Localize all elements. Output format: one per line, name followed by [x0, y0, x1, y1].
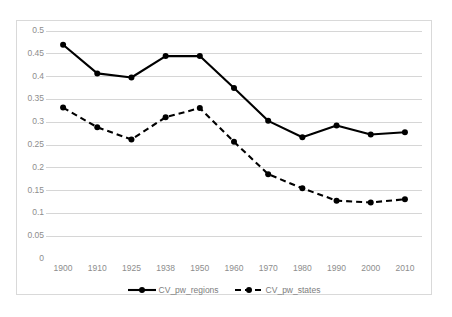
data-point[interactable]: [402, 129, 408, 135]
y-axis-tick-labels: 00.050.10.150.20.250.30.350.40.450.5: [16, 31, 44, 259]
x-axis-tick-labels: 1900191019251938195019601970198019902000…: [46, 263, 422, 277]
y-tick-label: 0.15: [16, 186, 44, 195]
data-point[interactable]: [334, 198, 340, 204]
legend-item-CV_pw_regions[interactable]: CV_pw_regions: [128, 285, 219, 295]
x-tick-label: 1980: [293, 263, 312, 273]
data-point[interactable]: [231, 139, 237, 145]
data-point[interactable]: [265, 171, 271, 177]
data-point[interactable]: [368, 199, 374, 205]
x-tick-label: 2000: [361, 263, 380, 273]
data-point[interactable]: [334, 122, 340, 128]
legend-label: CV_pw_states: [266, 285, 321, 295]
y-tick-label: 0.05: [16, 231, 44, 240]
y-tick-label: 0.35: [16, 94, 44, 103]
data-point[interactable]: [94, 124, 100, 130]
x-tick-label: 1925: [122, 263, 141, 273]
x-tick-label: 1970: [259, 263, 278, 273]
x-tick-label: 1900: [54, 263, 73, 273]
data-point[interactable]: [94, 70, 100, 76]
data-point[interactable]: [128, 137, 134, 143]
y-tick-label: 0.3: [16, 117, 44, 126]
x-tick-label: 2010: [395, 263, 414, 273]
y-tick-label: 0.2: [16, 163, 44, 172]
legend-item-CV_pw_states[interactable]: CV_pw_states: [235, 285, 321, 295]
chart-container: 00.050.10.150.20.250.30.350.40.450.5 190…: [0, 0, 452, 317]
data-point[interactable]: [231, 85, 237, 91]
data-point[interactable]: [197, 53, 203, 59]
data-point[interactable]: [163, 114, 169, 120]
data-point[interactable]: [60, 42, 66, 48]
x-tick-label: 1990: [327, 263, 346, 273]
legend-swatch-solid-line-icon: [128, 285, 156, 295]
legend-swatch-dashed-line-icon: [235, 285, 263, 295]
series-lines-group: [63, 45, 405, 203]
data-point[interactable]: [402, 196, 408, 202]
x-tick-label: 1960: [225, 263, 244, 273]
x-tick-label: 1938: [156, 263, 175, 273]
series-markers-group: [60, 42, 408, 206]
data-point[interactable]: [368, 132, 374, 138]
x-tick-label: 1950: [190, 263, 209, 273]
data-point[interactable]: [60, 105, 66, 111]
line-chart-plot: [46, 31, 422, 259]
gridlines-group: [46, 31, 422, 259]
y-tick-label: 0: [16, 254, 44, 263]
y-tick-label: 0.25: [16, 140, 44, 149]
data-point[interactable]: [197, 105, 203, 111]
chart-legend: CV_pw_regionsCV_pw_states: [16, 283, 432, 297]
data-point[interactable]: [265, 118, 271, 124]
x-tick-label: 1910: [88, 263, 107, 273]
data-point[interactable]: [128, 75, 134, 81]
y-tick-label: 0.5: [16, 26, 44, 35]
y-tick-label: 0.45: [16, 49, 44, 58]
y-tick-label: 0.4: [16, 72, 44, 81]
y-tick-label: 0.1: [16, 208, 44, 217]
data-point[interactable]: [299, 134, 305, 140]
plot-area: [46, 31, 422, 259]
legend-label: CV_pw_regions: [159, 285, 219, 295]
data-point[interactable]: [299, 185, 305, 191]
data-point[interactable]: [163, 53, 169, 59]
